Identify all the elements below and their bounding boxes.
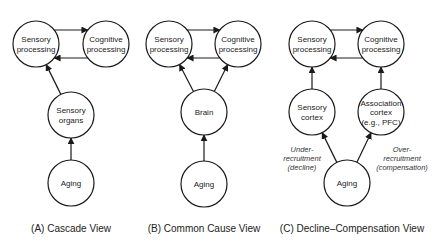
caption-panel-b: (B) Common Cause View: [148, 223, 261, 234]
annotation-under-recruitment: recruitment: [283, 154, 321, 163]
annotation-over-recruitment: recruitment: [383, 154, 421, 163]
node-label: Sensory: [21, 35, 50, 44]
node-label: processing: [17, 45, 56, 54]
node-c-cp: Cognitiveprocessing: [358, 21, 404, 67]
arrow-b-br-to-sp: [180, 64, 194, 91]
node-label: processing: [293, 45, 332, 54]
arrow-c-ag-to-ac: [357, 133, 371, 163]
annotation-over-recruitment: Over-: [393, 145, 412, 154]
node-label: Sensory: [297, 35, 326, 44]
annotation-under-recruitment: Under-: [291, 145, 314, 154]
diagram: SensoryprocessingCognitiveprocessingSens…: [0, 0, 434, 246]
node-label: Aging: [61, 179, 81, 188]
node-label: (e.g., PFC): [361, 118, 400, 127]
node-a-cp: Cognitiveprocessing: [83, 21, 129, 67]
node-b-br: Brain: [181, 89, 227, 135]
arrow-b-br-to-cp: [214, 65, 227, 92]
node-c-ac: Associationcortex(e.g., PFC): [358, 89, 404, 135]
caption-panel-a: (A) Cascade View: [31, 223, 112, 234]
node-label: cortex: [301, 113, 323, 122]
arrow-c-ag-to-sc: [322, 133, 337, 163]
node-c-sp: Sensoryprocessing: [289, 21, 335, 67]
captions-layer: (A) Cascade View (B) Common Cause View (…: [31, 223, 425, 234]
node-label: Aging: [194, 180, 214, 189]
node-a-ag: Aging: [48, 160, 94, 206]
node-c-sc: Sensorycortex: [289, 89, 335, 135]
node-label: Cognitive: [364, 35, 398, 44]
node-label: Brain: [195, 108, 214, 117]
node-a-so: Sensoryorgans: [48, 92, 94, 138]
nodes-layer: SensoryprocessingCognitiveprocessingSens…: [13, 21, 404, 207]
node-label: Cognitive: [89, 35, 123, 44]
node-label: processing: [219, 45, 258, 54]
node-label: Aging: [337, 179, 357, 188]
arrow-a-so-to-sp: [46, 65, 61, 95]
node-b-sp: Sensoryprocessing: [146, 21, 192, 67]
node-b-ag: Aging: [181, 161, 227, 207]
caption-panel-c: (C) Decline–Compensation View: [280, 223, 425, 234]
annotation-over-recruitment: (compensation): [376, 163, 428, 172]
node-label: cortex: [370, 108, 392, 117]
node-label: processing: [362, 45, 401, 54]
annotation-under-recruitment: (decline): [288, 163, 317, 172]
node-label: Sensory: [297, 103, 326, 112]
node-label: organs: [59, 116, 83, 125]
node-label: processing: [87, 45, 126, 54]
node-a-sp: Sensoryprocessing: [13, 21, 59, 67]
node-label: Association: [361, 99, 402, 108]
node-label: Sensory: [56, 106, 85, 115]
node-label: processing: [150, 45, 189, 54]
node-b-cp: Cognitiveprocessing: [215, 21, 261, 67]
node-label: Cognitive: [221, 35, 255, 44]
node-c-ag: Aging: [324, 160, 370, 206]
node-label: Sensory: [154, 35, 183, 44]
